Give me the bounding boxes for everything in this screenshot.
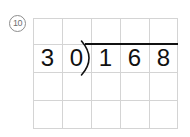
grid-line-horizontal: [33, 18, 178, 19]
grid-line-vertical: [62, 18, 63, 129]
digit-cell: 6: [120, 44, 149, 72]
dividend-divisor-digit-row: 3 0 1 6 8: [33, 44, 178, 72]
grid-line-horizontal: [33, 72, 178, 73]
digit-cell: 1: [91, 44, 120, 72]
grid-line-vertical: [149, 18, 150, 129]
digit-cell: 8: [149, 44, 178, 72]
digit-cell: 3: [33, 44, 62, 72]
digit-cell: 0: [62, 44, 91, 72]
problem-number-label: 10: [13, 19, 22, 28]
grid-line-horizontal: [33, 128, 178, 129]
grid-line-vertical: [120, 18, 121, 129]
grid-line-vertical: [33, 18, 34, 129]
notebook-grid: [33, 18, 178, 129]
long-division-worksheet-problem: 10 3 0 1 6 8: [0, 0, 190, 137]
circled-number-icon: 10: [9, 15, 26, 32]
grid-line-horizontal: [33, 100, 178, 101]
grid-line-vertical: [177, 18, 178, 129]
